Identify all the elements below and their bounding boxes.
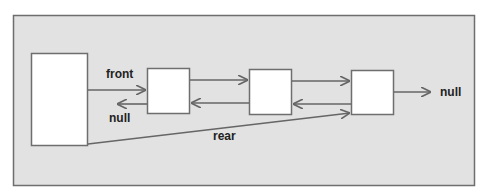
list-node-1 [148, 69, 190, 114]
list-node-3 [352, 71, 394, 115]
null-left-label: null [109, 111, 130, 125]
null-right-label: null [440, 85, 461, 99]
list-node-2 [250, 70, 292, 115]
front-label: front [106, 67, 133, 81]
rear-label: rear [213, 129, 236, 143]
queue-header-box [32, 54, 88, 146]
queue-diagram: front null rear null [0, 0, 488, 195]
